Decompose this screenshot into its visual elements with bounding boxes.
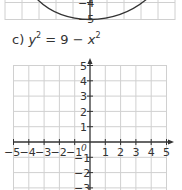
x-label-3: 3 [133, 146, 140, 159]
x-label-4: 4 [148, 146, 155, 159]
x-axis-arrow-icon [168, 140, 174, 145]
y-label-2: 2 [80, 106, 87, 119]
y-label-neg3: −3 [74, 182, 90, 190]
y-label-3: 3 [80, 90, 87, 103]
x-label-1: 1 [102, 146, 109, 159]
y-axis-arrow-icon [88, 58, 93, 64]
y-label-5: 5 [80, 60, 87, 73]
y-label-1: 1 [80, 121, 87, 134]
x-label-5: 5 [163, 146, 170, 159]
y-label-4: 4 [80, 75, 87, 88]
x-label-neg2: −2 [51, 146, 67, 159]
x-label-neg4: −4 [20, 146, 36, 159]
y-tick-labels: 5 4 3 2 1 −1 −2 −3 [74, 60, 90, 190]
origin-label: 0 [81, 143, 87, 153]
y-label-neg2: −2 [74, 167, 90, 180]
x-label-2: 2 [117, 146, 124, 159]
x-label-neg1: −1 [66, 146, 82, 159]
x-label-neg5: −5 [4, 146, 20, 159]
coordinate-grid: 5 4 3 2 1 −1 −2 −3 −5 −4 −3 −2 −1 1 2 3 … [0, 0, 182, 190]
x-label-neg3: −3 [35, 146, 51, 159]
